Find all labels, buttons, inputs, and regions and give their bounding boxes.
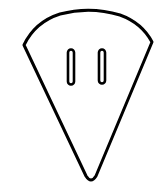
wedge-body-outline [24, 10, 152, 180]
wedge-figure [0, 0, 157, 188]
slot-right [99, 50, 105, 84]
slot-left [68, 50, 74, 85]
